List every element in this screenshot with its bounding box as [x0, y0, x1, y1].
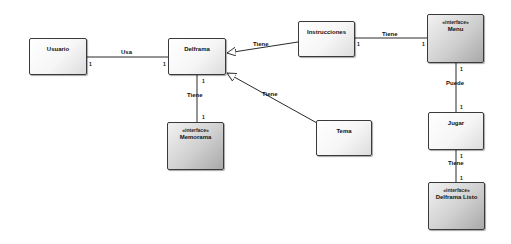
multiplicity: 1: [422, 41, 425, 47]
multiplicity: 1: [460, 66, 463, 72]
multiplicity: 1: [460, 104, 463, 110]
relation-label-tiene-memorama: Tiene: [187, 92, 203, 99]
interface-delframa-listo[interactable]: «interface» Delframa Listo: [428, 182, 485, 230]
multiplicity: 1: [202, 114, 205, 120]
relation-label-tiene-menu: Tiene: [382, 31, 398, 38]
multiplicity: 1: [357, 41, 360, 47]
interface-memorama[interactable]: «interface» Memorama: [167, 122, 224, 170]
multiplicity: 1: [460, 153, 463, 159]
class-jugar[interactable]: Jugar: [428, 112, 484, 150]
class-usuario[interactable]: Usuario: [29, 38, 87, 75]
class-name: Delframa Listo: [429, 193, 484, 201]
class-delframa[interactable]: Delframa: [168, 38, 226, 75]
multiplicity: 1: [89, 61, 92, 67]
class-name: Jugar: [429, 119, 483, 127]
relation-label-tiene-instrucciones: Tiene: [253, 41, 269, 48]
class-instrucciones[interactable]: Instrucciones: [298, 21, 355, 57]
class-name: Instrucciones: [299, 28, 354, 36]
multiplicity: 1: [202, 78, 205, 84]
class-name: Usuario: [30, 45, 86, 53]
interface-menu[interactable]: «interface» Menu: [427, 14, 484, 63]
relation-label-tiene-tema: Tiene: [262, 91, 278, 98]
relation-label-usa: Usa: [121, 49, 132, 56]
multiplicity: 1: [163, 61, 166, 67]
multiplicity: 1: [460, 175, 463, 181]
class-name: Menu: [428, 25, 483, 33]
relation-label-puede: Puede: [446, 80, 464, 87]
relation-label-tiene-delframa-listo: Tiene: [448, 160, 464, 167]
class-name: Delframa: [169, 45, 225, 53]
class-name: Tema: [317, 127, 371, 135]
tema-generalization-line: [227, 73, 317, 123]
class-name: Memorama: [168, 133, 223, 141]
uml-class-diagram: Usuario Delframa Instrucciones «interfac…: [0, 0, 511, 244]
class-tema[interactable]: Tema: [316, 120, 372, 156]
